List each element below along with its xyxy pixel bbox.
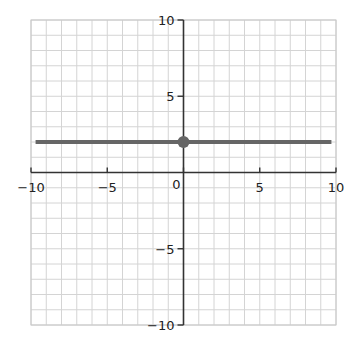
coordinate-plane: −10−55100−10−5510 (0, 0, 355, 347)
y-tick-label: −5 (155, 242, 174, 257)
x-tick-label: −10 (17, 180, 44, 195)
origin-label: 0 (172, 177, 180, 192)
y-tick-label: 5 (166, 89, 174, 104)
data-series (36, 136, 332, 148)
x-tick-label: −5 (98, 180, 117, 195)
data-point (178, 136, 190, 148)
x-tick-label: 5 (256, 180, 264, 195)
x-tick-label: 10 (328, 180, 345, 195)
y-tick-label: 10 (158, 13, 175, 28)
y-tick-label: −10 (147, 318, 174, 333)
